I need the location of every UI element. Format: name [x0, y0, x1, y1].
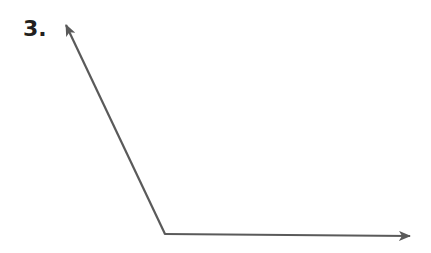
- vertex-point: [164, 233, 166, 235]
- angle-diagram: [0, 0, 431, 253]
- figure-canvas: 3.: [0, 0, 431, 253]
- ray-upper: [66, 25, 165, 234]
- ray-right: [165, 234, 410, 236]
